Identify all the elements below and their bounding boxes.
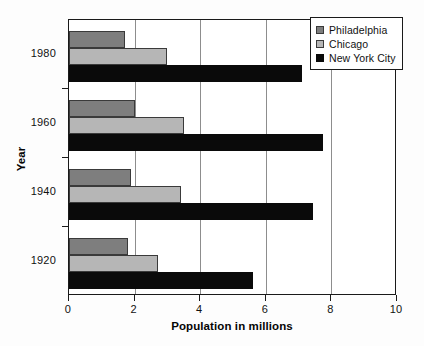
x-tick-label: 4 (179, 303, 219, 315)
bar (69, 203, 313, 220)
x-tick-mark (330, 295, 331, 301)
legend-item-label: Chicago (329, 38, 368, 50)
y-tick-label: 1980 (0, 47, 56, 59)
bar-chart: 0246810 1980196019401920 Population in m… (0, 0, 424, 346)
x-tick-label: 10 (376, 303, 416, 315)
bar (69, 134, 323, 151)
y-tick-label: 1940 (0, 185, 56, 197)
bar (69, 31, 125, 48)
x-axis-title: Population in millions (68, 320, 396, 332)
x-tick-mark (134, 295, 135, 301)
legend-item-label: New York City (329, 52, 396, 64)
x-tick-mark (265, 295, 266, 301)
x-tick-label: 2 (114, 303, 154, 315)
y-tick-mark (62, 157, 68, 158)
bar (69, 169, 131, 186)
legend-swatch-icon (316, 40, 324, 48)
y-tick-label: 1960 (0, 116, 56, 128)
x-tick-label: 6 (245, 303, 285, 315)
bar (69, 48, 167, 65)
x-tick-mark (199, 295, 200, 301)
gridline (266, 20, 267, 294)
legend-item-label: Philadelphia (329, 24, 387, 36)
bar (69, 117, 184, 134)
y-tick-mark (62, 88, 68, 89)
y-axis-title: Year (15, 129, 27, 189)
bar (69, 65, 302, 82)
bar (69, 255, 158, 272)
legend-swatch-icon (316, 26, 324, 34)
gridline (200, 20, 201, 294)
x-tick-mark (68, 295, 69, 301)
legend-item[interactable]: Chicago (316, 37, 396, 50)
legend-item[interactable]: New York City (316, 51, 396, 64)
bar (69, 272, 253, 289)
bar (69, 186, 181, 203)
legend-item[interactable]: Philadelphia (316, 23, 396, 36)
bar (69, 238, 128, 255)
x-tick-mark (396, 295, 397, 301)
y-tick-label: 1920 (0, 254, 56, 266)
bar (69, 100, 135, 117)
x-tick-label: 0 (48, 303, 88, 315)
x-tick-label: 8 (310, 303, 350, 315)
legend: Philadelphia Chicago New York City (310, 17, 403, 70)
legend-swatch-icon (316, 54, 324, 62)
y-tick-mark (62, 226, 68, 227)
